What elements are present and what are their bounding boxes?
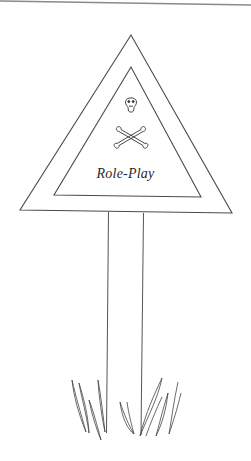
grass-tuft-left xyxy=(72,380,105,440)
grass-tuft-right xyxy=(120,378,181,436)
sign-text: Role-Play xyxy=(0,166,251,182)
illustration xyxy=(0,0,251,461)
sign-post xyxy=(107,212,144,435)
top-rule xyxy=(0,1,251,5)
